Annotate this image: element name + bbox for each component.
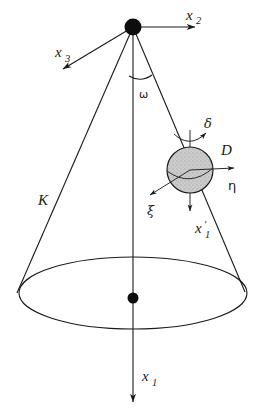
label-x1-base: x: [141, 368, 149, 384]
label-x1: x 1: [141, 368, 157, 388]
label-xi: ξ: [147, 203, 155, 218]
label-eta: η: [228, 178, 236, 193]
label-x1-prime: x ' 1: [194, 219, 210, 240]
label-x2-sub: 2: [196, 15, 202, 26]
cone-diagram-figure: x 2 x 3 ω δ D η ξ x ' 1 K x 1: [0, 0, 261, 419]
label-omega: ω: [139, 88, 148, 101]
label-x1-sub: 1: [152, 377, 157, 388]
label-D: D: [220, 142, 232, 158]
label-x1-prime-base: x: [194, 220, 202, 236]
cone-generator-left: [17, 27, 133, 293]
label-x3-base: x: [54, 44, 62, 60]
apex-node-dot: [125, 19, 142, 36]
label-x3: x 3: [54, 44, 70, 64]
cone-body: [17, 27, 247, 329]
cone-diagram-canvas: x 2 x 3 ω δ D η ξ x ' 1 K x 1: [0, 0, 261, 419]
label-K: K: [37, 192, 49, 208]
label-x1-prime-sub: 1: [205, 229, 210, 240]
base-center-dot: [128, 293, 139, 304]
label-delta: δ: [204, 116, 212, 131]
label-x2: x 2: [185, 7, 202, 26]
label-x3-sub: 3: [64, 53, 70, 64]
label-x2-base: x: [185, 7, 193, 23]
axis-x3-line: [63, 27, 133, 69]
